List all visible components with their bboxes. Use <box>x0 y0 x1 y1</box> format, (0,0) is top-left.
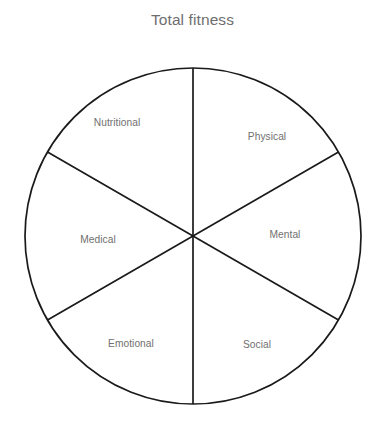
segment-label-mental: Mental <box>270 229 301 240</box>
segment-label-social: Social <box>243 339 271 350</box>
total-fitness-wheel-diagram: Total fitness Nutritional Physical Medic… <box>0 0 385 422</box>
segment-label-emotional: Emotional <box>108 338 154 349</box>
segment-label-medical: Medical <box>80 234 115 245</box>
fitness-wheel-graphic <box>0 0 385 422</box>
segment-label-nutritional: Nutritional <box>94 117 140 128</box>
segment-label-physical: Physical <box>248 131 286 142</box>
